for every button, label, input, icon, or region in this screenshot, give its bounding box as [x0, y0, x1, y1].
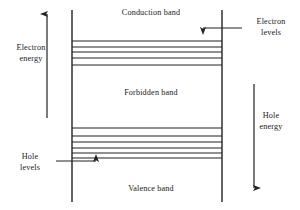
- electron-energy-label-line2: energy: [4, 54, 58, 65]
- band-frame: [72, 10, 222, 202]
- hole-levels-lines: [72, 128, 222, 158]
- electron-levels-label: Electron levels: [244, 17, 298, 38]
- hole-energy-label-line2: energy: [246, 122, 296, 133]
- hole-levels-label-line1: Hole: [6, 152, 54, 163]
- forbidden-band-label: Forbidden band: [103, 88, 199, 99]
- conduction-band-label: Conduction band: [103, 8, 199, 19]
- hole-levels-label-line2: levels: [6, 163, 54, 174]
- electron-levels-label-line1: Electron: [244, 17, 298, 28]
- hole-energy-label: Hole energy: [246, 111, 296, 132]
- electron-levels-label-line2: levels: [244, 28, 298, 39]
- electron-energy-label-line1: Electron: [4, 43, 58, 54]
- valence-band-label: Valence band: [103, 184, 199, 195]
- electron-levels-lines: [72, 41, 222, 65]
- hole-levels-label: Hole levels: [6, 152, 54, 173]
- hole-energy-label-line1: Hole: [246, 111, 296, 122]
- energy-band-diagram: Conduction band Forbidden band Valence b…: [0, 0, 300, 210]
- electron-energy-label: Electron energy: [4, 43, 58, 64]
